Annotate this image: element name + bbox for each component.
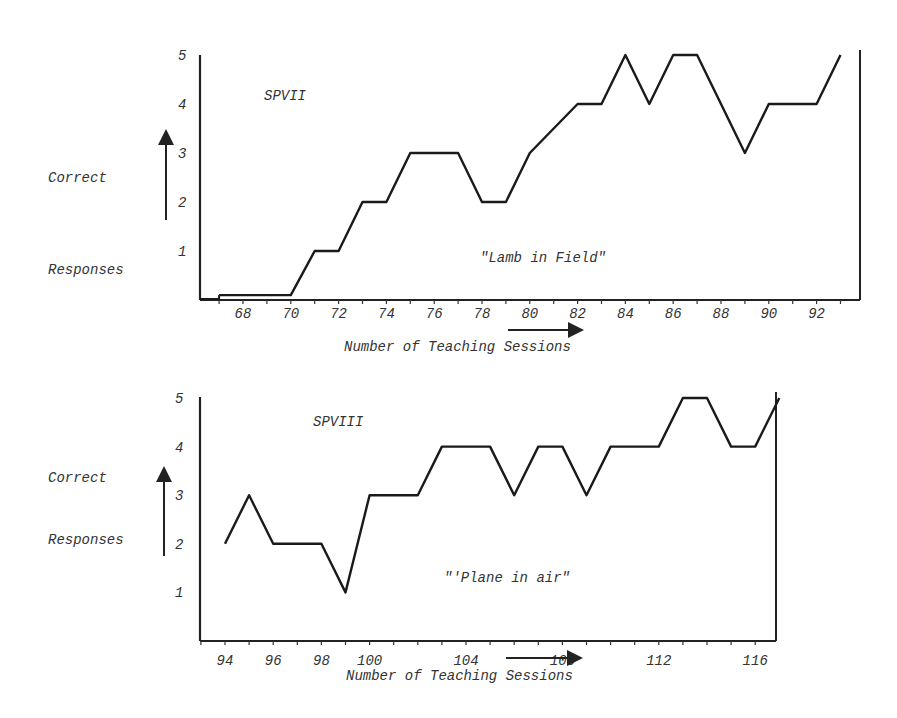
x-tick-label: 84 xyxy=(617,306,634,322)
y-tick-label: 2 xyxy=(178,195,186,211)
y-tick-label: 3 xyxy=(175,488,183,504)
y-tick-label: 5 xyxy=(178,48,187,64)
x-tick-label: 92 xyxy=(808,306,825,322)
figure: 1234568707274767880828486889092SPVII"Lam… xyxy=(0,0,897,718)
x-tick-label: 74 xyxy=(378,306,395,322)
series-title: SPVII xyxy=(264,88,307,104)
x-tick-label: 72 xyxy=(330,306,347,322)
y-axis-label-correct: Correct xyxy=(48,170,107,186)
x-tick-label: 86 xyxy=(665,306,682,322)
x-tick-label: 70 xyxy=(282,306,299,322)
x-tick-label: 112 xyxy=(646,653,671,669)
series-title: SPVIII xyxy=(313,414,364,430)
chart-annotation: "'Plane in air" xyxy=(444,570,570,586)
x-tick-label: 104 xyxy=(453,653,478,669)
data-series-line xyxy=(225,398,779,592)
y-tick-label: 2 xyxy=(175,537,183,553)
x-tick-label: 80 xyxy=(521,306,538,322)
x-tick-label: 96 xyxy=(265,653,282,669)
x-tick-label: 116 xyxy=(743,653,768,669)
x-tick-label: 90 xyxy=(760,306,777,322)
x-tick-label: 108 xyxy=(550,653,575,669)
y-tick-label: 5 xyxy=(175,391,184,407)
x-tick-label: 68 xyxy=(235,306,252,322)
y-tick-label: 4 xyxy=(175,440,183,456)
y-tick-label: 3 xyxy=(178,146,186,162)
y-axis-label-correct: Correct xyxy=(48,470,107,486)
x-tick-label: 100 xyxy=(357,653,382,669)
x-tick-label: 82 xyxy=(569,306,586,322)
chart-spvii: 1234568707274767880828486889092SPVII"Lam… xyxy=(48,48,860,355)
chart-spviii: 12345949698100104108112116SPVIII"'Plane … xyxy=(48,391,779,684)
x-tick-label: 98 xyxy=(313,653,330,669)
y-tick-label: 1 xyxy=(178,244,186,260)
x-axis-label: Number of Teaching Sessions xyxy=(344,339,571,355)
y-axis-label-responses: Responses xyxy=(48,262,124,278)
x-tick-label: 78 xyxy=(474,306,491,322)
x-axis-label: Number of Teaching Sessions xyxy=(346,668,573,684)
y-axis-label-responses: Responses xyxy=(48,532,124,548)
x-tick-label: 88 xyxy=(713,306,730,322)
y-tick-label: 1 xyxy=(175,585,183,601)
y-tick-label: 4 xyxy=(178,97,186,113)
chart-annotation: "Lamb in Field" xyxy=(480,250,606,266)
x-tick-label: 94 xyxy=(217,653,234,669)
x-tick-label: 76 xyxy=(426,306,443,322)
